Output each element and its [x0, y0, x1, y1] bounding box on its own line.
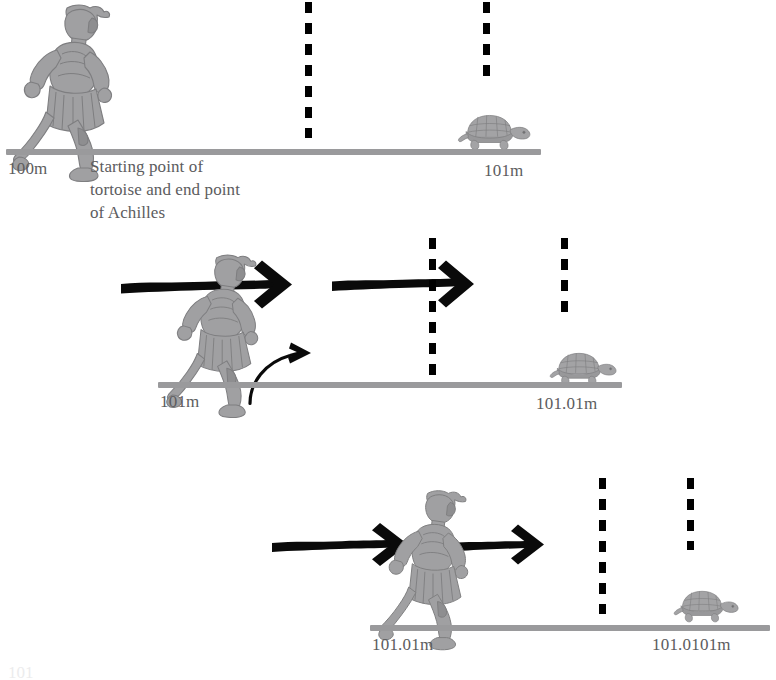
ground-line [370, 625, 770, 631]
dashed-marker-1 [429, 238, 436, 378]
clipped-footer-row: 101 [0, 666, 776, 680]
dashed-marker-2 [687, 478, 694, 550]
panel-3: 101.01m 101.0101m [0, 472, 776, 672]
end-label: 101.0101m [652, 634, 731, 655]
ground-line [158, 382, 622, 388]
start-label: 100m [8, 158, 48, 179]
start-label: 101.01m [372, 634, 433, 655]
annotation-caption: Starting point of tortoise and end point… [90, 155, 305, 224]
panel-2: 101m 101.01m [0, 236, 776, 426]
tortoise-icon [672, 589, 740, 625]
end-label: 101m [484, 160, 524, 181]
start-label: 101m [160, 391, 200, 412]
tortoise-icon [456, 113, 532, 153]
dashed-marker-2 [561, 238, 568, 312]
dashed-marker-2 [483, 2, 490, 84]
dashed-marker-1 [599, 478, 606, 614]
end-label: 101.01m [536, 393, 597, 414]
panel-1: 100m 101m Starting point of tortoise and… [0, 0, 776, 235]
diagram-canvas: 100m 101m Starting point of tortoise and… [0, 0, 776, 680]
clipped-footer-text: 101 [8, 666, 34, 680]
dashed-marker-1 [305, 2, 312, 138]
